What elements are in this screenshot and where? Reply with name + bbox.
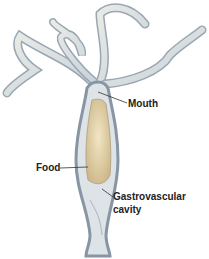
gastrovascular-label: Gastrovascular (113, 191, 186, 203)
tentacles (7, 8, 202, 93)
cavity-label: cavity (113, 204, 141, 216)
mouth-label: Mouth (128, 98, 158, 110)
food-label: Food (36, 162, 60, 174)
hydra-illustration (0, 0, 209, 259)
